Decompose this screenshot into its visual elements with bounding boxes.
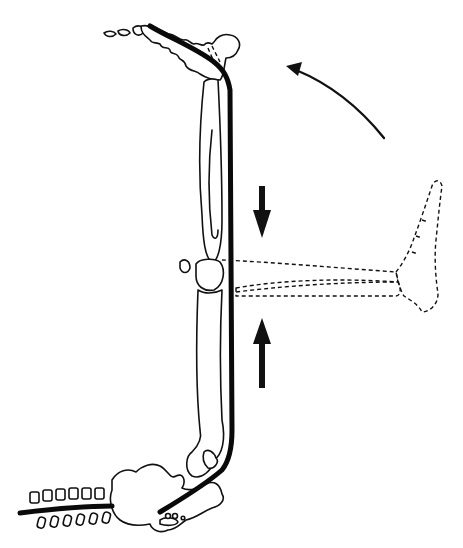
foot-top [104, 26, 240, 80]
vertebra-process [102, 511, 112, 523]
arrow-up-head [253, 318, 271, 344]
vertebra-process [50, 515, 60, 527]
arrow-down [253, 186, 271, 238]
vertebra-process [63, 514, 73, 526]
lower-leg-bones [180, 79, 223, 290]
vertebrae-upper-row [30, 488, 104, 503]
ghost-foot-joints [412, 220, 428, 254]
vertebra [95, 488, 104, 499]
vertebra [56, 489, 65, 500]
vertebra [43, 490, 52, 501]
vertebra-process [37, 516, 47, 528]
curved-rotation-arrow [286, 62, 384, 138]
curved-arrow-head [286, 62, 302, 76]
vertebra-process [76, 513, 86, 525]
anatomical-figure [0, 0, 463, 548]
curved-arrow-shaft [296, 70, 384, 138]
vertebra [69, 488, 78, 499]
knee-condyle [196, 259, 223, 290]
vertebrae-lower-row [37, 511, 112, 528]
sacral-foramen [181, 516, 185, 520]
nerve-spinal-segment [20, 506, 112, 513]
sacral-foramen [173, 514, 178, 519]
patella [180, 260, 190, 273]
sacral-foramen [166, 514, 171, 519]
ghost-tibia [222, 260, 398, 292]
vertebra [30, 492, 39, 503]
tibia [200, 79, 222, 262]
ghost-fibula [236, 280, 400, 296]
toe-bone [104, 31, 116, 36]
toe-bone [118, 30, 130, 36]
ghost-foot [396, 181, 442, 312]
arrow-down-head [253, 210, 271, 238]
pelvis-group [110, 464, 223, 531]
vertebra-process [89, 512, 99, 524]
femur-group [187, 290, 224, 477]
arrow-up [253, 318, 271, 388]
vertebra [82, 488, 91, 499]
femur [187, 290, 224, 477]
ghost-leg-dashed [222, 181, 442, 312]
